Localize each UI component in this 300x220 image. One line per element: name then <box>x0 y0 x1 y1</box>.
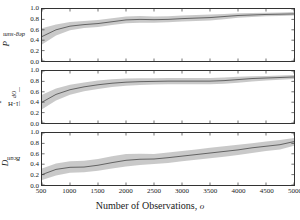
y-tick-label: 1.0 <box>30 129 39 136</box>
y-axis-title-panel-2: DBcan <box>0 132 18 186</box>
plot-svg-panel-2 <box>42 133 294 185</box>
figure-chart-panels: Pdeg-sum0.00.20.40.60.81.0P|1-HOP|0.00.2… <box>0 0 300 220</box>
y-tick-label: 1.0 <box>30 67 39 74</box>
y-tick-label: 0.2 <box>30 172 39 179</box>
plot-svg-panel-0 <box>42 9 294 61</box>
x-axis-title-text: Number of Observations, o <box>96 200 204 211</box>
x-tick-label: 3000 <box>175 188 189 195</box>
y-tick-label: 0.0 <box>30 121 39 128</box>
y-axis-tick-labels-panel-1: 0.00.20.40.60.81.0 <box>18 70 40 124</box>
y-tick-label: 0.6 <box>30 150 39 157</box>
y-tick-label: 0.8 <box>30 15 39 22</box>
y-axis-tick-labels-panel-2: 0.00.20.40.60.81.0 <box>18 132 40 186</box>
x-tick-label: 2000 <box>119 188 133 195</box>
x-tick-label: 1000 <box>62 188 76 195</box>
plot-area-panel-2 <box>41 132 295 186</box>
x-tick-label: 3500 <box>203 188 217 195</box>
x-axis-tick-labels: 500100015002000250030003500400045005000 <box>0 188 300 198</box>
chart-panel-1: P|1-HOP|0.00.20.40.60.81.0 <box>0 70 300 124</box>
x-tick-label: 2500 <box>147 188 161 195</box>
y-axis-title-panel-1: P|1-HOP| <box>0 70 18 124</box>
y-tick-label: 0.2 <box>30 48 39 55</box>
plot-area-panel-1 <box>41 70 295 124</box>
x-axis-symbol: o <box>200 201 205 211</box>
plot-svg-panel-1 <box>42 71 294 123</box>
y-tick-label: 0.8 <box>30 77 39 84</box>
chart-panel-2: DBcan0.00.20.40.60.81.0 <box>0 132 300 186</box>
x-tick-label: 1500 <box>90 188 104 195</box>
x-tick-label: 4000 <box>232 188 246 195</box>
x-tick-label: 5000 <box>288 188 300 195</box>
y-tick-label: 0.6 <box>30 88 39 95</box>
chart-panel-0: Pdeg-sum0.00.20.40.60.81.0 <box>0 8 300 62</box>
y-tick-label: 0.4 <box>30 37 39 44</box>
y-tick-label: 0.0 <box>30 59 39 66</box>
y-axis-title-panel-0: Pdeg-sum <box>0 8 18 62</box>
x-tick-label: 500 <box>36 188 47 195</box>
x-axis-title: Number of Observations, o <box>0 200 300 211</box>
y-tick-label: 0.4 <box>30 161 39 168</box>
x-tick-label: 4500 <box>260 188 274 195</box>
confidence-band <box>42 75 294 109</box>
confidence-band <box>42 12 294 45</box>
y-tick-label: 0.6 <box>30 26 39 33</box>
y-tick-label: 1.0 <box>30 5 39 12</box>
y-axis-tick-labels-panel-0: 0.00.20.40.60.81.0 <box>18 8 40 62</box>
plot-area-panel-0 <box>41 8 295 62</box>
y-tick-label: 0.2 <box>30 110 39 117</box>
confidence-band <box>42 138 294 180</box>
y-tick-label: 0.8 <box>30 139 39 146</box>
y-tick-label: 0.4 <box>30 99 39 106</box>
